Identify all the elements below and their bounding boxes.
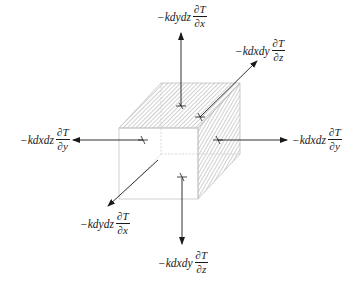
fraction: ∂T ∂y [56,127,70,152]
label-bottom-flux: −kdxdy ∂T ∂z [158,250,208,275]
fraction: ∂T ∂z [195,250,209,275]
label-left-flux: −kdxdz ∂T ∂y [20,127,70,152]
fraction: ∂T ∂y [328,127,342,152]
fraction: ∂T ∂x [116,211,130,236]
label-right-flux: −kdxdz ∂T ∂y [292,127,342,152]
label-back-flux: −kdxdy ∂T ∂z [235,38,285,63]
label-top-flux: −kdydz ∂T ∂x [157,4,207,29]
fraction: ∂T ∂x [193,4,207,29]
cube-front-face [119,128,198,199]
label-front-flux: −kdydz ∂T ∂x [80,211,130,236]
fraction: ∂T ∂z [272,38,286,63]
